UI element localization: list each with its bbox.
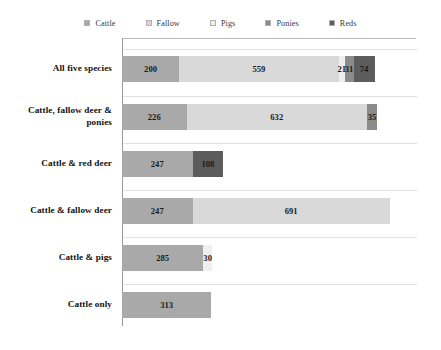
gridline (123, 49, 417, 50)
bar-row[interactable]: 247108 (122, 151, 223, 177)
legend-swatch-icon (329, 20, 335, 26)
legend-label: Reds (340, 19, 357, 28)
legend-label: Fallow (157, 19, 180, 28)
bar-segment-cattle[interactable]: 247 (122, 198, 193, 224)
bar-segment-cattle[interactable]: 200 (122, 56, 179, 82)
legend-item-fallow[interactable]: Fallow (146, 19, 180, 28)
category-label: Cattle & fallow deer (0, 204, 112, 216)
bar-segment-ponies[interactable]: 31 (345, 56, 354, 82)
bar-value-label: 200 (144, 65, 157, 74)
legend-swatch-icon (84, 20, 90, 26)
bar-value-label: 285 (156, 254, 169, 263)
bar-segment-cattle[interactable]: 247 (122, 151, 193, 177)
bar-segment-cattle[interactable]: 313 (122, 292, 211, 318)
chart-legend: CattleFallowPigsPoniesReds (0, 14, 441, 32)
gridline (123, 190, 417, 191)
gridline (123, 284, 417, 285)
bar-segment-fallow[interactable]: 559 (179, 56, 339, 82)
bar-row[interactable]: 28530 (122, 245, 212, 271)
bar-value-label: 74 (360, 65, 369, 74)
bar-value-label: 30 (203, 254, 212, 263)
bar-row[interactable]: 313 (122, 292, 211, 318)
category-label: Cattle, fallow deer & ponies (0, 104, 112, 128)
legend-label: Pigs (221, 19, 236, 28)
bar-segment-reds[interactable]: 108 (193, 151, 224, 177)
bar-value-label: 632 (270, 113, 283, 122)
bar-value-label: 226 (148, 113, 161, 122)
gridline (123, 143, 417, 144)
bar-value-label: 35 (368, 113, 377, 122)
bar-value-label: 31 (345, 65, 354, 74)
bar-segment-fallow[interactable]: 691 (193, 198, 390, 224)
bar-segment-cattle[interactable]: 226 (122, 104, 187, 130)
legend-swatch-icon (265, 20, 271, 26)
bar-row[interactable]: 247691 (122, 198, 390, 224)
bar-value-label: 313 (160, 301, 173, 310)
category-label: Cattle only (0, 298, 112, 310)
category-label: Cattle & pigs (0, 251, 112, 263)
bar-segment-fallow[interactable]: 632 (187, 104, 367, 130)
legend-item-ponies[interactable]: Ponies (265, 19, 298, 28)
gridline (123, 237, 417, 238)
legend-item-pigs[interactable]: Pigs (210, 19, 236, 28)
legend-swatch-icon (210, 20, 216, 26)
legend-swatch-icon (146, 20, 152, 26)
category-label: Cattle & red deer (0, 157, 112, 169)
legend-label: Ponies (276, 19, 298, 28)
bar-segment-pigs[interactable]: 30 (203, 245, 212, 271)
stacked-bar-chart: CattleFallowPigsPoniesReds 2005592131742… (0, 0, 441, 350)
bar-row[interactable]: 22663235 (122, 104, 377, 130)
legend-item-cattle[interactable]: Cattle (84, 19, 115, 28)
bar-segment-ponies[interactable]: 35 (367, 104, 377, 130)
bar-row[interactable]: 200559213174 (122, 56, 375, 82)
bar-value-label: 108 (201, 160, 214, 169)
bar-segment-reds[interactable]: 74 (354, 56, 375, 82)
bar-value-label: 247 (151, 207, 164, 216)
bar-value-label: 559 (252, 65, 265, 74)
bar-value-label: 691 (285, 207, 298, 216)
legend-item-reds[interactable]: Reds (329, 19, 357, 28)
gridline (123, 96, 417, 97)
bar-segment-cattle[interactable]: 285 (122, 245, 203, 271)
category-label: All five species (0, 62, 112, 74)
legend-label: Cattle (95, 19, 115, 28)
bar-value-label: 247 (151, 160, 164, 169)
